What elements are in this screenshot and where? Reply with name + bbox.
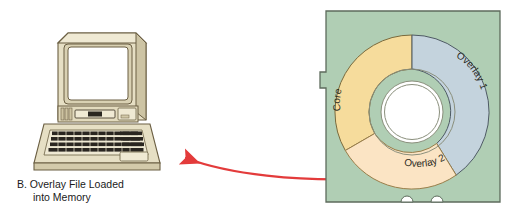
keyboard-front-edge	[34, 163, 160, 170]
floppy-drive-door[interactable]	[88, 112, 102, 117]
disk-slice-label-core-text: Core	[331, 87, 344, 112]
hub-hole	[385, 85, 440, 140]
monitor-top-face	[58, 33, 146, 43]
disk-slice-label-core: Core	[331, 87, 344, 112]
floppy-disk-group: Core Overlay 1 Overlay 2	[320, 11, 500, 202]
vent-grille	[61, 108, 72, 120]
drive-indicator	[121, 115, 129, 118]
computer-group: B. Overlay File Loaded into Memory	[17, 33, 160, 203]
illustration-svg: B. Overlay File Loaded into Memory	[0, 0, 528, 218]
caption-line-1: B. Overlay File Loaded	[17, 178, 124, 190]
caption-line-2: into Memory	[33, 191, 92, 203]
palm-rest-plate	[120, 152, 148, 161]
figure-canvas: B. Overlay File Loaded into Memory	[0, 0, 528, 218]
keyboard-keys[interactable]	[44, 130, 148, 155]
monitor-screen	[68, 47, 128, 100]
